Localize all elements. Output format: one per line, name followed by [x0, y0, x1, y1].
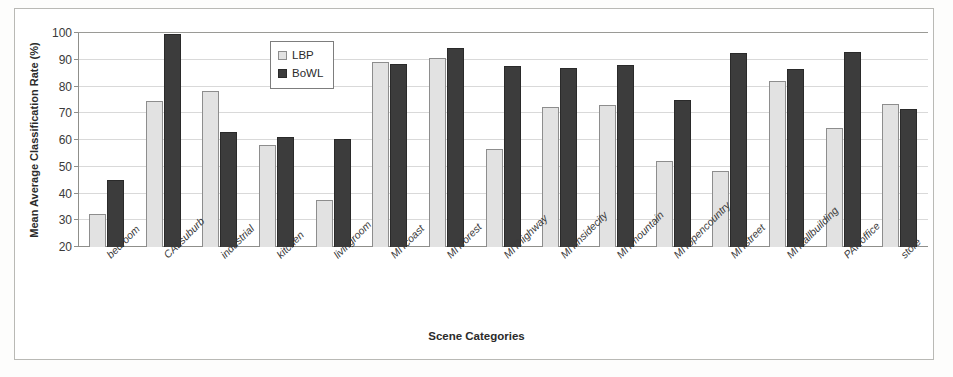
x-label-slot: kitchen [248, 250, 305, 325]
x-axis-category-labels: bedroomCALsuburbindustrialkitchenlivingr… [78, 250, 928, 325]
x-label-slot: MITmountain [588, 250, 645, 325]
bar-group [361, 33, 418, 247]
bar-lbp [89, 214, 106, 247]
x-axis-title: Scene Categories [0, 330, 953, 342]
bar-bowl [730, 53, 747, 247]
bar-group [78, 33, 135, 247]
bar-group [135, 33, 192, 247]
y-tick-label: 40 [59, 187, 72, 201]
bar-bowl [844, 52, 861, 247]
legend-item-bowl: BoWL [278, 65, 323, 83]
bar-lbp [769, 81, 786, 247]
bar-groups [78, 33, 928, 247]
bar-bowl [334, 139, 351, 247]
legend: LBP BoWL [270, 41, 334, 89]
x-label-slot: PARoffice [815, 250, 872, 325]
y-tick-label: 50 [59, 160, 72, 174]
x-label-slot: MITstreet [701, 250, 758, 325]
bar-lbp [316, 200, 333, 247]
bar-bowl [617, 65, 634, 247]
bar-group [418, 33, 475, 247]
plot-area: 2030405060708090100 [78, 33, 928, 247]
bar-lbp [429, 58, 446, 247]
legend-label-bowl: BoWL [292, 65, 323, 83]
y-tick-label: 60 [59, 133, 72, 147]
x-label-slot: bedroom [78, 250, 135, 325]
y-tick-label: 80 [59, 80, 72, 94]
bar-bowl [787, 69, 804, 247]
bar-lbp [259, 145, 276, 247]
x-label-slot: MITcoast [361, 250, 418, 325]
x-label-slot: MITinsidecity [531, 250, 588, 325]
bar-bowl [674, 100, 691, 247]
x-label-slot: livingroom [305, 250, 362, 325]
bar-bowl [560, 68, 577, 247]
bar-group [475, 33, 532, 247]
x-label-slot: industrial [191, 250, 248, 325]
x-label-slot: MIThighway [475, 250, 532, 325]
x-label-slot: store [871, 250, 928, 325]
bar-lbp [826, 128, 843, 247]
bar-bowl [447, 48, 464, 247]
bar-group [758, 33, 815, 247]
bar-bowl [900, 109, 917, 247]
legend-label-lbp: LBP [292, 47, 314, 65]
bar-bowl [220, 132, 237, 247]
x-axis-title-text: Scene Categories [428, 330, 525, 342]
y-tick-label: 30 [59, 213, 72, 227]
y-tick-label: 20 [59, 240, 72, 254]
y-tick-label: 100 [52, 26, 72, 40]
legend-swatch-lbp-icon [278, 51, 287, 60]
bar-lbp [599, 105, 616, 247]
y-tick-label: 90 [59, 53, 72, 67]
y-tick-label: 70 [59, 106, 72, 120]
legend-swatch-bowl-icon [278, 69, 287, 78]
x-label-slot: MITtallbuilding [758, 250, 815, 325]
bar-bowl [277, 137, 294, 247]
bar-lbp [656, 161, 673, 247]
x-label-slot: MITopencountry [645, 250, 702, 325]
figure: Mean Average Classification Rate (%) 203… [0, 0, 953, 377]
x-label-slot: CALsuburb [135, 250, 192, 325]
bar-lbp [542, 107, 559, 247]
bar-group [871, 33, 928, 247]
y-axis-title-text: Mean Average Classification Rate (%) [28, 42, 40, 237]
y-axis-title: Mean Average Classification Rate (%) [26, 33, 42, 247]
bar-bowl [504, 66, 521, 247]
legend-item-lbp: LBP [278, 47, 323, 65]
bar-lbp [882, 104, 899, 247]
bar-lbp [372, 62, 389, 247]
bar-bowl [164, 34, 181, 247]
x-label-slot: MITforest [418, 250, 475, 325]
bar-lbp [486, 149, 503, 247]
bar-bowl [390, 64, 407, 247]
bar-lbp [146, 101, 163, 247]
